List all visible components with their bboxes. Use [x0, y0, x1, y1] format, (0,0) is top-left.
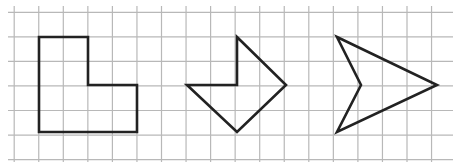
arrow-pentagon	[187, 37, 286, 132]
concave-arrowhead	[337, 37, 437, 132]
shapes-group	[39, 37, 437, 132]
grid-figure-canvas	[0, 0, 453, 162]
